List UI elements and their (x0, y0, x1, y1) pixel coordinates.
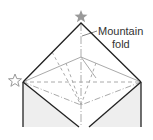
mountain-fold-label-line1: Mountain (98, 25, 143, 37)
outline-star-icon (9, 74, 22, 86)
dashed-diagonal-left-outer (52, 52, 81, 105)
dashed-diagonal-right-inner (81, 63, 96, 105)
dashed-diagonal-left-inner (66, 63, 81, 105)
mountain-fold-label-line2: fold (112, 38, 130, 50)
origami-diagram (0, 0, 153, 140)
inner-top-edges (23, 57, 141, 82)
filled-star-icon (75, 10, 88, 22)
